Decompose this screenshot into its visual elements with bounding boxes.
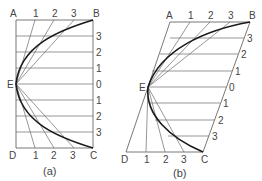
- label-right-3-lower-a: 3: [96, 127, 102, 138]
- label-right-1-lower-a: 1: [96, 95, 102, 106]
- label-E-a: E: [7, 79, 14, 90]
- label-top-1-b: 1: [188, 10, 194, 21]
- label-right-1-upper-b: 1: [235, 66, 241, 77]
- label-D-b: D: [121, 154, 128, 165]
- label-bottom-1-b: 1: [144, 154, 150, 165]
- label-right-3-lower-b: 3: [212, 131, 218, 142]
- label-top-2-b: 2: [208, 10, 214, 21]
- label-right-2-lower-a: 2: [96, 111, 102, 122]
- label-top-3-a: 3: [71, 8, 77, 19]
- label-right-0-a: 0: [96, 79, 102, 90]
- label-B-a: B: [93, 8, 100, 19]
- label-top-1-a: 1: [33, 8, 39, 19]
- label-D-a: D: [9, 150, 16, 161]
- label-bottom-3-a: 3: [70, 150, 76, 161]
- left-edge-lower-b: [126, 87, 148, 152]
- label-right-2-lower-b: 2: [218, 115, 224, 126]
- label-bottom-2-a: 2: [51, 150, 57, 161]
- label-C-a: C: [90, 150, 97, 161]
- label-right-1-upper-a: 1: [96, 63, 102, 74]
- figure-b: A 1 2 3 B 3 2 1 0 1 2 3 E D 1 2 3 C (b): [121, 10, 256, 179]
- label-right-3-upper-a: 3: [96, 31, 102, 42]
- label-A-a: A: [10, 8, 17, 19]
- label-right-2-upper-a: 2: [96, 47, 102, 58]
- label-E-b: E: [139, 82, 146, 93]
- label-C-b: C: [201, 154, 208, 165]
- label-right-3-upper-b: 3: [247, 33, 253, 44]
- label-right-1-lower-b: 1: [223, 98, 229, 109]
- caption-a: (a): [43, 165, 56, 177]
- horizontal-lines-a: [16, 36, 93, 132]
- caption-b: (b): [173, 167, 186, 179]
- label-B-b: B: [249, 10, 256, 21]
- label-bottom-2-b: 2: [163, 154, 169, 165]
- label-right-0-b: 0: [229, 82, 235, 93]
- label-top-3-b: 3: [228, 10, 234, 21]
- label-A-b: A: [166, 10, 173, 21]
- label-top-2-a: 2: [52, 8, 58, 19]
- label-right-2-upper-b: 2: [241, 49, 247, 60]
- label-bottom-3-b: 3: [181, 154, 187, 165]
- label-bottom-1-a: 1: [33, 150, 39, 161]
- figure-a: A 1 2 3 B 3 2 1 0 1 2 3 E D 1 2 3 C (a): [7, 8, 102, 177]
- parabola-construction-diagram: A 1 2 3 B 3 2 1 0 1 2 3 E D 1 2 3 C (a): [0, 0, 262, 181]
